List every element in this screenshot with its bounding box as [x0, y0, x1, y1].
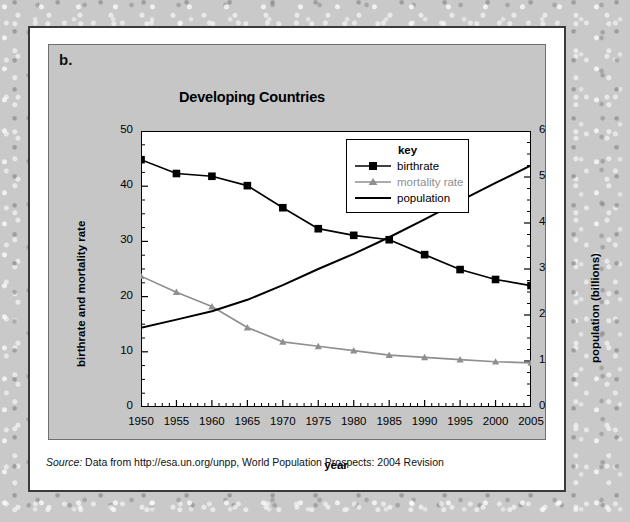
y-tick-label-left: 50 — [107, 123, 133, 135]
legend-item-label: birthrate — [397, 160, 439, 172]
x-tick-label: 2005 — [511, 415, 551, 427]
source-text: Data from http://esa.un.org/unpp, World … — [85, 456, 444, 468]
legend-title: key — [354, 144, 461, 156]
x-tick-label: 1975 — [298, 415, 338, 427]
y-tick-label-right: 5 — [539, 169, 559, 181]
y-tick-label-right: 1 — [539, 353, 559, 365]
legend-marker-none-icon — [354, 191, 392, 205]
y-tick-label-right: 0 — [539, 399, 559, 411]
legend-item-birthrate: birthrate — [354, 158, 461, 174]
x-tick-label: 1985 — [369, 415, 409, 427]
y-axis-label-left: birthrate and mortality rate — [75, 221, 87, 367]
legend-marker-triangle-icon — [354, 175, 392, 189]
legend-rows: birthratemortality ratepopulation — [354, 158, 461, 206]
legend-item-label: population — [397, 192, 450, 204]
y-tick-label-left: 0 — [107, 399, 133, 411]
x-tick-label: 1955 — [156, 415, 196, 427]
y-tick-label-left: 40 — [107, 178, 133, 190]
legend-marker-square-icon — [354, 159, 392, 173]
y-tick-label-right: 2 — [539, 307, 559, 319]
x-tick-label: 1965 — [227, 415, 267, 427]
x-tick-label: 2000 — [476, 415, 516, 427]
y-tick-label-right: 4 — [539, 215, 559, 227]
legend-item-population: population — [354, 190, 461, 206]
legend-item-label: mortality rate — [397, 176, 463, 188]
y-axis-label-right: population (billions) — [589, 253, 601, 363]
y-tick-label-right: 3 — [539, 261, 559, 273]
screenshot-root: b. Developing Countries birthrate and mo… — [0, 0, 630, 522]
source-note: Source: Data from http://esa.un.org/unpp… — [46, 456, 444, 468]
legend-item-mortality-rate: mortality rate — [354, 174, 461, 190]
x-tick-label: 1990 — [405, 415, 445, 427]
plot-wrap: birthrate and mortality rate population … — [141, 131, 531, 407]
y-tick-label-left: 10 — [107, 344, 133, 356]
figure-card: b. Developing Countries birthrate and mo… — [28, 26, 566, 492]
x-tick-label: 1980 — [334, 415, 374, 427]
x-tick-label: 1960 — [192, 415, 232, 427]
y-tick-label-left: 20 — [107, 289, 133, 301]
source-label: Source: — [46, 456, 82, 468]
chart-title: Developing Countries — [49, 89, 545, 105]
chart-legend: key birthratemortality ratepopulation — [346, 139, 469, 213]
plot-svg — [141, 131, 531, 407]
x-tick-label: 1970 — [263, 415, 303, 427]
y-tick-label-right: 6 — [539, 123, 559, 135]
y-tick-label-left: 30 — [107, 233, 133, 245]
chart-panel: b. Developing Countries birthrate and mo… — [48, 44, 546, 440]
panel-letter: b. — [59, 51, 72, 68]
x-tick-label: 1995 — [440, 415, 480, 427]
x-tick-label: 1950 — [121, 415, 161, 427]
